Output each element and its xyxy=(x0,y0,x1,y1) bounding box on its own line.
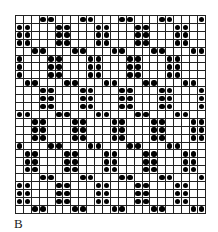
grid-cell-dot xyxy=(181,110,189,118)
grid-cell xyxy=(39,70,47,78)
grid-cell-dot xyxy=(55,23,63,31)
grid-cell xyxy=(47,39,55,47)
grid-cell xyxy=(70,70,78,78)
grid-cell xyxy=(189,173,197,181)
grid-cell xyxy=(86,205,94,213)
grid-cell xyxy=(62,102,70,110)
grid-cell xyxy=(149,94,157,102)
grid-cell xyxy=(86,39,94,47)
grid-cell xyxy=(165,39,173,47)
grid-cell xyxy=(126,31,134,39)
grid-cell xyxy=(47,149,55,157)
grid-cell xyxy=(126,47,134,55)
grid-cell-dot xyxy=(189,149,197,157)
grid-cell xyxy=(102,118,110,126)
grid-cell-dot xyxy=(23,23,31,31)
grid-cell xyxy=(181,62,189,70)
grid-cell xyxy=(134,149,142,157)
grid-cell-dot xyxy=(94,197,102,205)
grid-cell-dot xyxy=(149,165,157,173)
grid-cell xyxy=(86,134,94,142)
grid-cell-dot xyxy=(70,149,78,157)
grid-cell-dot xyxy=(39,205,47,213)
grid-cell xyxy=(197,189,205,197)
grid-cell-dot xyxy=(78,126,86,134)
grid-cell-dot xyxy=(86,55,94,63)
grid-cell-dot xyxy=(39,15,47,23)
grid-cell xyxy=(102,47,110,55)
grid-cell xyxy=(181,142,189,150)
grid-cell-dot xyxy=(149,134,157,142)
grid-cell-dot xyxy=(197,126,205,134)
grid-cell-dot xyxy=(173,55,181,63)
grid-cell-dot xyxy=(181,31,189,39)
grid-cell xyxy=(102,94,110,102)
grid-cell-dot xyxy=(142,78,150,86)
grid-cell xyxy=(134,86,142,94)
grid-cell-dot xyxy=(70,157,78,165)
grid-cell xyxy=(70,189,78,197)
grid-cell xyxy=(62,205,70,213)
grid-cell xyxy=(39,165,47,173)
grid-cell xyxy=(94,157,102,165)
grid-cell-dot xyxy=(62,181,70,189)
grid-cell xyxy=(47,157,55,165)
grid-cell xyxy=(102,126,110,134)
grid-cell xyxy=(110,94,118,102)
grid-cell xyxy=(78,31,86,39)
grid-cell-dot xyxy=(23,39,31,47)
grid-cell xyxy=(31,15,39,23)
grid-cell xyxy=(94,47,102,55)
grid-cell-dot xyxy=(157,94,165,102)
grid-cell xyxy=(55,15,63,23)
grid-cell-dot xyxy=(189,165,197,173)
grid-cell xyxy=(173,165,181,173)
grid-cell-dot xyxy=(55,31,63,39)
grid-cell-dot xyxy=(142,165,150,173)
grid-cell xyxy=(181,15,189,23)
grid-cell xyxy=(189,15,197,23)
grid-cell-dot xyxy=(134,70,142,78)
grid-cell-dot xyxy=(39,94,47,102)
grid-cell xyxy=(110,189,118,197)
grid-cell xyxy=(149,181,157,189)
grid-cell-dot xyxy=(55,55,63,63)
grid-cell-dot xyxy=(39,126,47,134)
grid-cell xyxy=(62,126,70,134)
grid-cell xyxy=(39,39,47,47)
grid-cell-dot xyxy=(78,173,86,181)
grid-cell-dot xyxy=(173,31,181,39)
grid-cell xyxy=(102,55,110,63)
grid-cell-dot xyxy=(142,39,150,47)
grid-cell xyxy=(189,31,197,39)
grid-cell xyxy=(110,70,118,78)
grid-cell-dot xyxy=(134,55,142,63)
grid-cell-dot xyxy=(173,142,181,150)
grid-cell-dot xyxy=(31,165,39,173)
grid-cell xyxy=(78,149,86,157)
grid-cell-dot xyxy=(86,70,94,78)
grid-cell-dot xyxy=(102,181,110,189)
grid-cell xyxy=(78,110,86,118)
grid-cell xyxy=(31,23,39,31)
grid-cell-dot xyxy=(197,134,205,142)
grid-cell xyxy=(15,47,23,55)
grid-cell xyxy=(70,31,78,39)
dot-grid xyxy=(15,15,206,214)
grid-cell xyxy=(102,102,110,110)
grid-cell xyxy=(126,205,134,213)
grid-cell xyxy=(94,205,102,213)
grid-cell xyxy=(149,23,157,31)
grid-cell xyxy=(86,31,94,39)
grid-cell-dot xyxy=(23,78,31,86)
grid-cell xyxy=(55,118,63,126)
grid-cell-dot xyxy=(39,102,47,110)
grid-cell xyxy=(149,15,157,23)
grid-cell-dot xyxy=(55,70,63,78)
grid-cell xyxy=(134,94,142,102)
grid-cell-dot xyxy=(55,39,63,47)
grid-cell xyxy=(149,39,157,47)
grid-cell xyxy=(142,55,150,63)
grid-cell xyxy=(15,86,23,94)
grid-cell xyxy=(126,134,134,142)
